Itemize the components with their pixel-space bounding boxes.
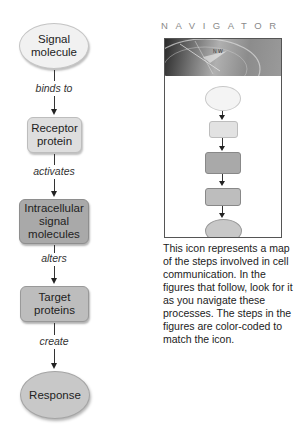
navigator-caption: This icon represents a map of the steps … (163, 242, 295, 346)
mini-node-signal (205, 86, 241, 111)
arrow-down-icon (51, 109, 57, 115)
node-label: molecule (31, 46, 77, 59)
node-label: protein (31, 135, 78, 148)
node-intracellular-signal-molecules: Intracellular signal molecules (19, 199, 89, 244)
connector-line (54, 323, 55, 335)
arrow-down-icon (51, 363, 57, 369)
edge-label-alters: alters (0, 252, 108, 264)
node-label: proteins (34, 304, 75, 317)
mini-node-intracellular (205, 152, 241, 174)
mini-node-target (205, 188, 241, 206)
node-label: Intracellular (24, 202, 83, 215)
arrow-down-icon (219, 213, 225, 218)
arrow-down-icon (219, 115, 225, 120)
edge-label-create: create (0, 335, 108, 347)
arrow-down-icon (219, 146, 225, 151)
node-label: Signal (31, 33, 77, 46)
connector-line (54, 349, 55, 364)
connector-line (54, 96, 55, 110)
compass-image: N W (165, 39, 281, 76)
edge-label-binds-to: binds to (0, 82, 108, 94)
mini-node-receptor (209, 121, 238, 138)
node-response: Response (20, 371, 90, 419)
edge-label-activates: activates (0, 165, 108, 177)
mini-node-response (205, 219, 242, 238)
compass-icon: N W (165, 39, 282, 76)
navigator-title: NAVIGATOR (161, 20, 286, 31)
svg-text:N W: N W (213, 48, 223, 54)
node-label: Receptor (31, 122, 78, 135)
navigator-icon: N W (164, 38, 282, 238)
node-signal-molecule: Signal molecule (19, 23, 89, 69)
connector-line (54, 154, 55, 165)
node-label: molecules (24, 228, 83, 241)
arrow-down-icon (51, 278, 57, 284)
connector-line (54, 70, 55, 81)
node-label: Response (29, 389, 81, 402)
node-receptor-protein: Receptor protein (27, 117, 82, 153)
arrow-down-icon (219, 181, 225, 186)
node-label: signal (24, 215, 83, 228)
arrow-down-icon (51, 191, 57, 197)
node-target-proteins: Target proteins (20, 286, 89, 322)
node-label: Target (34, 291, 75, 304)
